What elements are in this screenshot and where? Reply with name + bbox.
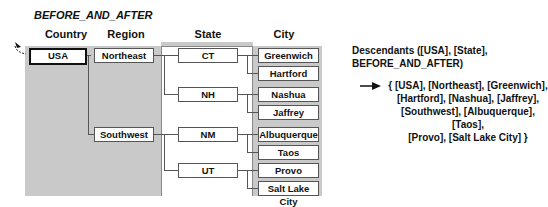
node-city-nashua[interactable]: Nashua [258, 87, 319, 102]
node-city-greenwich[interactable]: Greenwich [258, 48, 319, 63]
diagram-title: BEFORE_AND_AFTER [34, 9, 153, 21]
connector [247, 134, 248, 152]
node-city-hartford[interactable]: Hartford [258, 66, 319, 81]
column-header-state: State [168, 28, 248, 40]
result-line-3: [Southwest], [Albuquerque], [Taos], [388, 105, 548, 131]
node-state-ut[interactable]: UT [178, 163, 238, 178]
connector [247, 188, 258, 189]
connector [152, 134, 178, 135]
connector [247, 55, 248, 73]
expression-line-2: BEFORE_AND_AFTER) [352, 57, 488, 70]
node-state-nm[interactable]: NM [178, 127, 238, 142]
connector [88, 55, 89, 134]
node-region-northeast[interactable]: Northeast [94, 48, 154, 63]
descendants-expression: Descendants ([USA], [State], BEFORE_AND_… [352, 44, 488, 70]
connector [164, 55, 165, 94]
result-line-1: { [USA], [Northeast], [Greenwich], [388, 79, 548, 92]
column-header-city: City [250, 28, 318, 40]
connector [152, 55, 178, 56]
node-city-jaffrey[interactable]: Jaffrey [258, 105, 319, 120]
arrow-right-icon [360, 81, 382, 91]
result-line-2: [Hartford], [Nashua], [Jaffrey], [388, 92, 548, 105]
node-city-provo[interactable]: Provo [258, 163, 319, 178]
node-city-albuquerque[interactable]: Albuquerque [258, 127, 319, 142]
connector [247, 94, 248, 112]
node-city-taos[interactable]: Taos [258, 145, 319, 160]
column-header-region: Region [90, 28, 162, 40]
expression-line-1: Descendants ([USA], [State], [352, 44, 488, 57]
node-country-usa[interactable]: USA [29, 48, 87, 65]
shaded-ancestor-region [25, 46, 161, 196]
node-city-salt-lake-city[interactable]: Salt Lake City [258, 181, 319, 196]
node-state-nh[interactable]: NH [178, 87, 238, 102]
connector [247, 73, 258, 74]
node-region-southwest[interactable]: Southwest [94, 127, 154, 142]
connector [247, 170, 248, 188]
connector [247, 152, 258, 153]
result-line-4: [Provo], [Salt Lake City] } [388, 131, 548, 144]
node-state-ct[interactable]: CT [178, 48, 238, 63]
connector [247, 112, 258, 113]
connector [164, 134, 165, 170]
connector [164, 170, 178, 171]
connector [164, 94, 178, 95]
